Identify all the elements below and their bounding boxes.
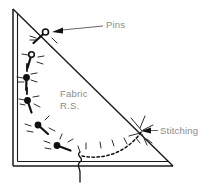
thread-squiggle [78,152,81,182]
label-fabric: Fabric [60,88,88,99]
label-fabric-rs: R.S. [60,100,79,111]
pin-head [25,98,31,104]
label-pins: Pins [106,19,125,30]
pin-5 [35,122,48,134]
sewing-diagram-svg: Pins Fabric R.S. Stitching [0,0,212,188]
pins-arrow-head [52,28,63,34]
triangle-hypotenuse [13,9,173,166]
pin-4 [25,98,32,113]
pins-leader-line [62,26,103,30]
label-stitching: Stitching [160,125,198,136]
fabric-triangle [13,9,173,166]
pin-head [54,143,60,149]
pin-head [24,75,30,81]
pin-2 [28,52,35,68]
pin-head [43,29,49,35]
stitching-leader [141,128,158,134]
pin-6 [54,143,70,151]
pins-leader [52,26,103,34]
pin-head [35,122,41,128]
figure-root: Pins Fabric R.S. Stitching [0,0,212,188]
pin-head [29,52,35,58]
